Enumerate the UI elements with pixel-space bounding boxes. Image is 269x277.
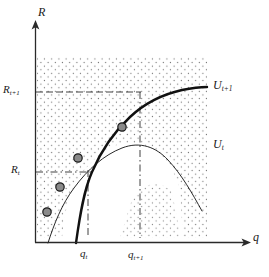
figure-container: R q Rt+1 Rt qt qt+1 Ut+1 Ut — [0, 0, 269, 277]
y-tick-label-R-t: Rt — [11, 164, 20, 177]
x-axis-label: q — [253, 231, 259, 243]
y-axis-label: R — [38, 6, 45, 18]
curve-label-U-t: Ut — [213, 138, 224, 152]
economics-diagram-svg — [0, 0, 269, 277]
data-point — [56, 183, 64, 191]
x-tick-label-q-t: qt — [80, 248, 87, 261]
y-tick-label-R-t-plus-1: Rt+1 — [3, 84, 20, 97]
curve-label-U-t-plus-1: Ut+1 — [213, 79, 232, 93]
stippled-region — [37, 57, 207, 238]
data-point — [43, 208, 51, 216]
data-point — [118, 123, 126, 131]
data-point — [74, 154, 82, 162]
x-tick-label-q-t-plus-1: qt+1 — [128, 249, 143, 262]
